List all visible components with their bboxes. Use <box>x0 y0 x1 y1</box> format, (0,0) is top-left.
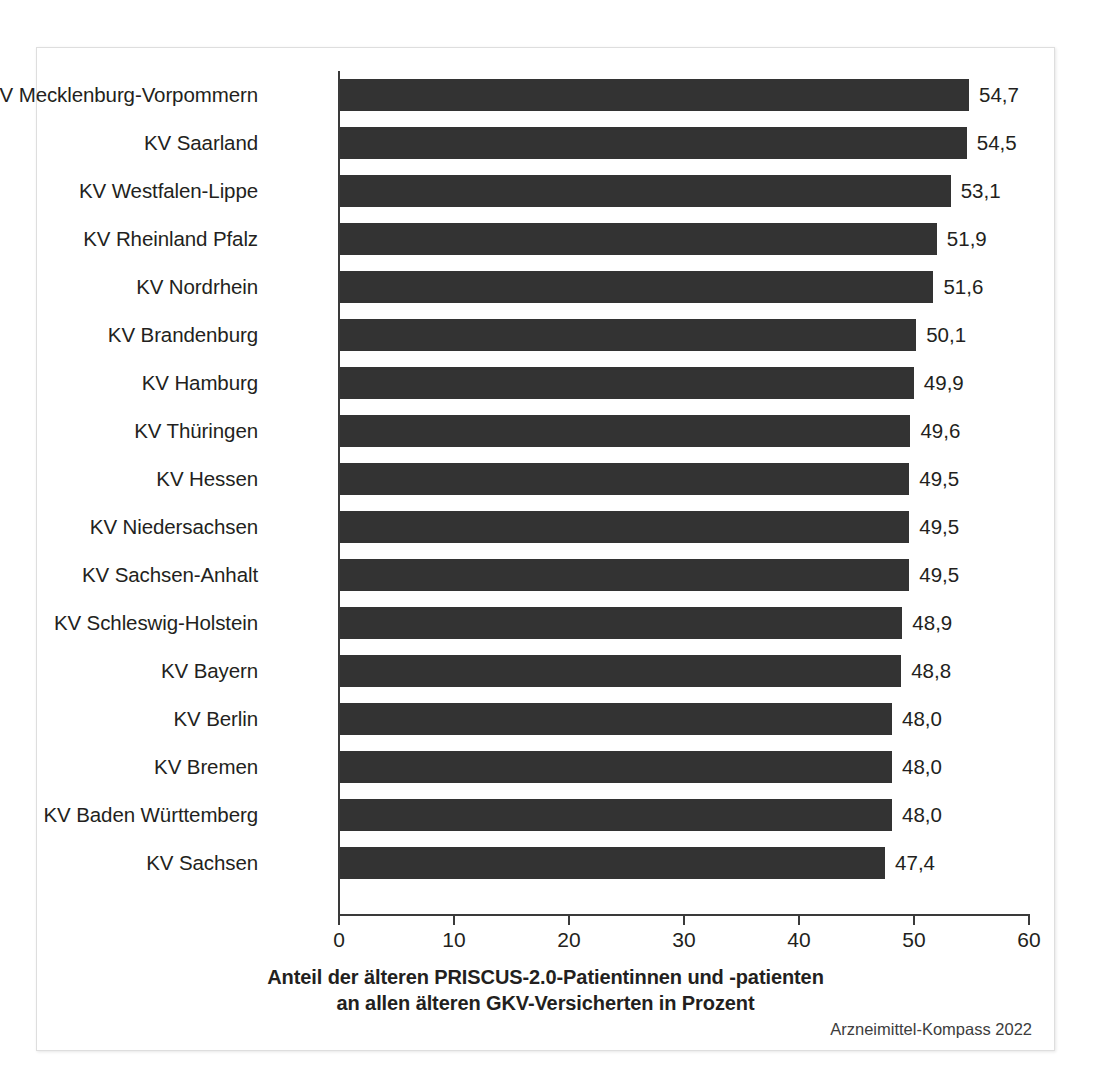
bar-value-label: 49,6 <box>920 407 960 455</box>
bar-row: KV Mecklenburg-Vorpommern54,7 <box>37 71 1054 119</box>
bar <box>340 463 909 495</box>
bar-row: KV Saarland54,5 <box>37 119 1054 167</box>
bar-category-label: KV Westfalen-Lippe <box>79 167 258 215</box>
figure-frame: KV Mecklenburg-Vorpommern54,7KV Saarland… <box>36 47 1055 1051</box>
bar-category-label: KV Sachsen-Anhalt <box>82 551 258 599</box>
bar-category-label: KV Bayern <box>161 647 258 695</box>
x-axis-tick-label: 40 <box>787 928 810 952</box>
bar <box>340 223 937 255</box>
bar-row: KV Brandenburg50,1 <box>37 311 1054 359</box>
x-axis-title-line-1: Anteil der älteren PRISCUS-2.0-Patientin… <box>267 966 824 988</box>
bar <box>340 271 933 303</box>
bar-category-label: KV Bremen <box>154 743 258 791</box>
x-axis-tick-mark <box>568 914 570 925</box>
bar-row: KV Bremen48,0 <box>37 743 1054 791</box>
x-axis-tick-mark <box>798 914 800 925</box>
bar-value-label: 53,1 <box>961 167 1001 215</box>
bar <box>340 703 892 735</box>
bar <box>340 607 902 639</box>
bar-row: KV Rheinland Pfalz51,9 <box>37 215 1054 263</box>
bar <box>340 319 916 351</box>
x-axis-tick-mark <box>683 914 685 925</box>
bar-category-label: KV Sachsen <box>146 839 258 887</box>
x-axis-tick-label: 30 <box>672 928 695 952</box>
x-axis-tick-label: 50 <box>902 928 925 952</box>
bar-category-label: KV Nordrhein <box>136 263 258 311</box>
bar-category-label: KV Baden Württemberg <box>44 791 259 839</box>
bar <box>340 415 910 447</box>
x-axis-tick-label: 0 <box>333 928 345 952</box>
bar-category-label: KV Berlin <box>173 695 258 743</box>
bar-category-label: KV Saarland <box>144 119 258 167</box>
bar <box>340 511 909 543</box>
bar-row: KV Hamburg49,9 <box>37 359 1054 407</box>
bar-value-label: 49,9 <box>924 359 964 407</box>
bar-value-label: 49,5 <box>919 455 959 503</box>
bar-value-label: 54,5 <box>977 119 1017 167</box>
bar-category-label: KV Hamburg <box>142 359 258 407</box>
bar-value-label: 51,6 <box>943 263 983 311</box>
bar-row: KV Berlin48,0 <box>37 695 1054 743</box>
bar-row: KV Niedersachsen49,5 <box>37 503 1054 551</box>
bar-value-label: 48,0 <box>902 695 942 743</box>
bar-value-label: 47,4 <box>895 839 935 887</box>
x-axis-tick-mark <box>1028 914 1030 925</box>
x-axis-tick-label: 20 <box>557 928 580 952</box>
bar <box>340 367 914 399</box>
bar-row: KV Thüringen49,6 <box>37 407 1054 455</box>
x-axis-tick-mark <box>338 914 340 925</box>
bar-row: KV Nordrhein51,6 <box>37 263 1054 311</box>
bar-value-label: 48,8 <box>911 647 951 695</box>
bar <box>340 799 892 831</box>
x-axis-tick-label: 10 <box>442 928 465 952</box>
bar-value-label: 49,5 <box>919 551 959 599</box>
bar <box>340 175 951 207</box>
bar-row: KV Sachsen47,4 <box>37 839 1054 887</box>
bar-row: KV Bayern48,8 <box>37 647 1054 695</box>
bar-row: KV Baden Württemberg48,0 <box>37 791 1054 839</box>
bar <box>340 751 892 783</box>
bar-category-label: KV Rheinland Pfalz <box>83 215 258 263</box>
x-axis-title-line-2: an allen älteren GKV-Versicherten in Pro… <box>37 990 1054 1016</box>
bar-row: KV Hessen49,5 <box>37 455 1054 503</box>
source-note: Arzneimittel-Kompass 2022 <box>830 1020 1032 1039</box>
bar-category-label: KV Hessen <box>156 455 258 503</box>
bar-value-label: 48,0 <box>902 743 942 791</box>
bar-category-label: KV Schleswig-Holstein <box>54 599 258 647</box>
bar-value-label: 48,9 <box>912 599 952 647</box>
x-axis-tick-label: 60 <box>1017 928 1040 952</box>
x-axis-title: Anteil der älteren PRISCUS-2.0-Patientin… <box>37 964 1054 1017</box>
bar-row: KV Sachsen-Anhalt49,5 <box>37 551 1054 599</box>
x-axis-tick-mark <box>453 914 455 925</box>
bar-category-label: KV Thüringen <box>134 407 258 455</box>
bar-value-label: 50,1 <box>926 311 966 359</box>
bar-row: KV Schleswig-Holstein48,9 <box>37 599 1054 647</box>
bar-category-label: KV Brandenburg <box>108 311 258 359</box>
bar <box>340 559 909 591</box>
x-axis-tick-mark <box>913 914 915 925</box>
bar-value-label: 54,7 <box>979 71 1019 119</box>
bar <box>340 847 885 879</box>
bar-category-label: KV Mecklenburg-Vorpommern <box>0 71 258 119</box>
bar-value-label: 48,0 <box>902 791 942 839</box>
bar-chart-plot: KV Mecklenburg-Vorpommern54,7KV Saarland… <box>37 48 1054 1050</box>
bar-value-label: 51,9 <box>947 215 987 263</box>
bar-row: KV Westfalen-Lippe53,1 <box>37 167 1054 215</box>
bar <box>340 655 901 687</box>
bar-category-label: KV Niedersachsen <box>90 503 258 551</box>
bar-value-label: 49,5 <box>919 503 959 551</box>
bar <box>340 79 969 111</box>
bar <box>340 127 967 159</box>
